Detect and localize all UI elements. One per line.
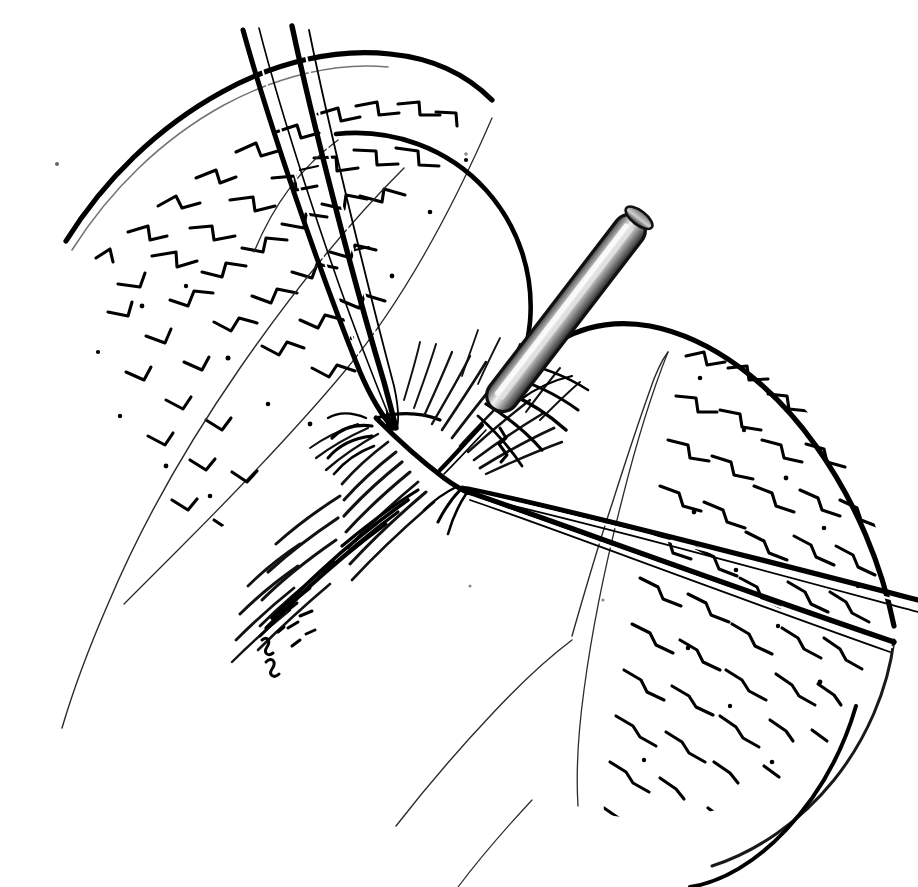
figure-root (0, 0, 918, 887)
left-stray-speck (55, 162, 59, 166)
surgical-illustration-svg (0, 0, 918, 887)
